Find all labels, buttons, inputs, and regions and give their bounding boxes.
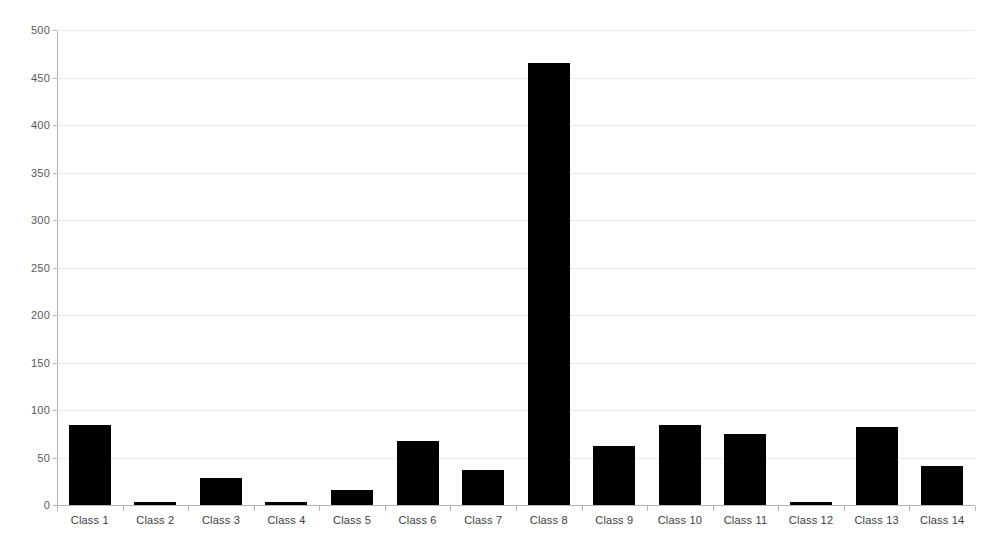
bar-slot — [778, 30, 844, 505]
x-tick-label-class-2: Class 2 — [136, 514, 174, 526]
y-tick-label-250: 250 — [31, 262, 50, 274]
bar-slot — [254, 30, 320, 505]
x-tick-mark — [647, 506, 648, 511]
plot-area — [57, 30, 975, 505]
x-tick-label-class-4: Class 4 — [267, 514, 305, 526]
x-tick-label-class-13: Class 13 — [854, 514, 898, 526]
x-tick-label-class-7: Class 7 — [464, 514, 502, 526]
bar[interactable] — [921, 466, 963, 505]
bar[interactable] — [462, 470, 504, 505]
bar-slot — [385, 30, 451, 505]
y-tick-label-100: 100 — [31, 404, 50, 416]
bar[interactable] — [593, 446, 635, 505]
y-tick-label-50: 50 — [37, 452, 50, 464]
y-tick-label-300: 300 — [31, 214, 50, 226]
y-tick-label-500: 500 — [31, 24, 50, 36]
bar-slot — [450, 30, 516, 505]
x-tick-label-class-6: Class 6 — [399, 514, 437, 526]
x-tick-mark — [450, 506, 451, 511]
x-tick-label-class-8: Class 8 — [530, 514, 568, 526]
x-tick-mark — [778, 506, 779, 511]
x-tick-label-class-10: Class 10 — [658, 514, 702, 526]
x-tick-label-class-1: Class 1 — [71, 514, 109, 526]
bar-chart: 050100150200250300350400450500 Class 1Cl… — [0, 0, 994, 555]
bar[interactable] — [724, 434, 766, 505]
x-tick-mark — [713, 506, 714, 511]
bar-slot — [188, 30, 254, 505]
x-tick-mark — [57, 506, 58, 511]
x-tick-mark — [582, 506, 583, 511]
y-tick-label-350: 350 — [31, 167, 50, 179]
bar[interactable] — [331, 490, 373, 505]
y-tick-label-0: 0 — [44, 499, 50, 511]
x-tick-label-class-5: Class 5 — [333, 514, 371, 526]
x-tick-mark — [975, 506, 976, 511]
x-tick-mark — [844, 506, 845, 511]
x-tick-label-class-14: Class 14 — [920, 514, 964, 526]
bar-slot — [582, 30, 648, 505]
x-tick-mark — [319, 506, 320, 511]
x-tick-mark — [254, 506, 255, 511]
y-tick-label-450: 450 — [31, 72, 50, 84]
x-tick-mark — [123, 506, 124, 511]
bar[interactable] — [397, 441, 439, 505]
bar[interactable] — [659, 425, 701, 505]
x-tick-label-class-3: Class 3 — [202, 514, 240, 526]
bar-slot — [123, 30, 189, 505]
x-tick-mark — [909, 506, 910, 511]
x-tick-mark — [188, 506, 189, 511]
bar[interactable] — [856, 427, 898, 505]
bar-slot — [909, 30, 975, 505]
bar-slot — [57, 30, 123, 505]
x-tick-mark — [516, 506, 517, 511]
y-tick-label-150: 150 — [31, 357, 50, 369]
x-tick-label-class-9: Class 9 — [595, 514, 633, 526]
bar[interactable] — [200, 478, 242, 505]
y-tick-label-400: 400 — [31, 119, 50, 131]
y-axis-tick-labels: 050100150200250300350400450500 — [0, 30, 50, 505]
bar-slot — [844, 30, 910, 505]
bar[interactable] — [69, 425, 111, 505]
x-tick-label-class-12: Class 12 — [789, 514, 833, 526]
y-tick-label-200: 200 — [31, 309, 50, 321]
bar[interactable] — [528, 63, 570, 505]
bar-slot — [713, 30, 779, 505]
bar-slot — [319, 30, 385, 505]
x-tick-mark — [385, 506, 386, 511]
bar-slot — [647, 30, 713, 505]
bar-slot — [516, 30, 582, 505]
x-tick-label-class-11: Class 11 — [724, 514, 768, 526]
